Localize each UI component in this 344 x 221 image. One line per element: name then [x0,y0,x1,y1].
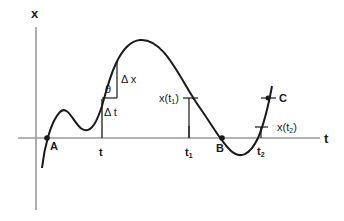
point-c-label: C [279,92,287,104]
point-b [219,135,225,141]
x-t2-label: x(t2) [277,121,297,134]
x-axis-label: x [31,6,39,21]
delta-t-label: Δ t [104,106,117,118]
position-time-diagram: x t A t θ Δ x Δ t x(t1) t1 B x(t2) t2 C [0,0,344,221]
point-a-label: A [50,140,58,152]
t-tick-label: t [99,146,103,158]
position-curve [42,40,272,168]
theta-label: θ [105,83,111,95]
point-a [44,135,50,141]
t-axis-label: t [324,131,329,146]
x-t1-label: x(t1) [159,92,179,105]
t1-tick-label: t1 [185,146,193,159]
t2-tick-label: t2 [257,145,265,158]
delta-x-label: Δ x [121,73,137,85]
point-b-label: B [216,142,224,154]
point-c [266,96,271,101]
